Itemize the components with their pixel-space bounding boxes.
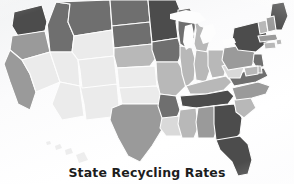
state-recycling-rates-figure: WashingtonOregonCaliforniaNevadaIdahoMon… — [0, 0, 294, 184]
state-hawaii-island-1 — [46, 141, 51, 145]
state-mississippi[interactable]: Mississippi — [178, 108, 198, 138]
state-rhode-island[interactable]: Rhode Island — [276, 39, 282, 45]
state-connecticut[interactable]: Connecticut — [264, 42, 276, 49]
state-hawaii-island-3 — [65, 148, 73, 155]
us-choropleth-map: WashingtonOregonCaliforniaNevadaIdahoMon… — [0, 0, 294, 184]
hawaii-inset — [46, 141, 88, 163]
state-nebraska[interactable]: Nebraska — [114, 44, 156, 68]
states-layer: WashingtonOregonCaliforniaNevadaIdahoMon… — [4, 0, 288, 176]
state-new-hampshire[interactable]: New Hampshire — [266, 16, 276, 32]
state-massachusetts[interactable]: Massachusetts — [258, 34, 278, 42]
state-minnesota[interactable]: Minnesota — [148, 0, 180, 42]
state-oklahoma[interactable]: Oklahoma — [119, 86, 161, 104]
page-title: State Recycling Rates — [0, 165, 294, 180]
state-hawaii-island-4 — [76, 152, 88, 163]
state-kansas[interactable]: Kansas — [117, 66, 157, 88]
state-iowa[interactable]: Iowa — [152, 38, 182, 62]
state-colorado[interactable]: Colorado — [78, 56, 117, 88]
state-hawaii-island-2 — [55, 144, 62, 150]
state-texas[interactable]: Texas — [110, 104, 166, 162]
state-maryland[interactable]: Maryland — [244, 66, 258, 76]
state-arizona[interactable]: Arizona — [52, 82, 84, 120]
